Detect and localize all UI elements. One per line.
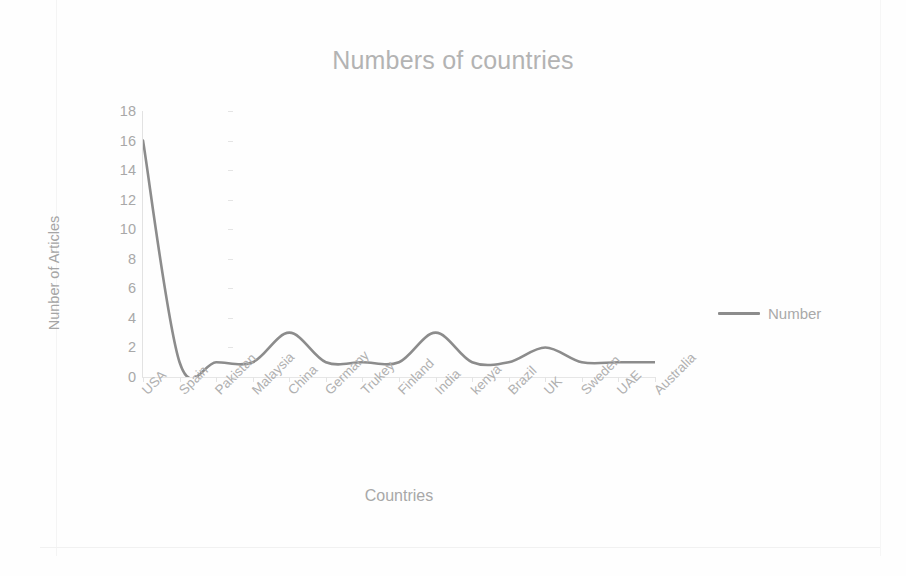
x-tick-spain: Spain xyxy=(176,363,211,398)
chart-legend: Number xyxy=(718,305,821,322)
x-axis-title: Countries xyxy=(143,487,655,505)
x-tick-brazil: Brazil xyxy=(505,363,539,397)
x-tick-finland: Finland xyxy=(395,356,437,398)
x-tick-kenya: kenya xyxy=(468,362,504,398)
x-tick-sweden: Sweden xyxy=(578,352,623,397)
x-tick-uae: UAE xyxy=(614,367,644,397)
x-tick-australia: Australia xyxy=(651,350,699,398)
x-tick-india: India xyxy=(432,366,463,397)
x-tick-usa: USA xyxy=(139,367,169,397)
legend-line-swatch xyxy=(718,312,760,315)
x-tick-china: China xyxy=(285,362,321,398)
legend-label: Number xyxy=(768,305,821,322)
